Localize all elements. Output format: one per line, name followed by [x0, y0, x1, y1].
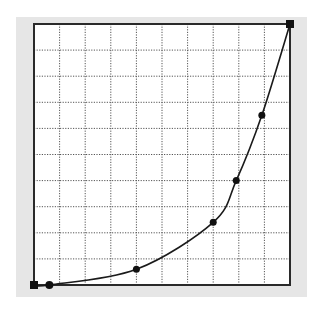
curve-control-point[interactable]	[258, 112, 265, 119]
curve-control-point[interactable]	[233, 177, 240, 184]
curve-endpoint-handle[interactable]	[30, 281, 38, 289]
curve-plot[interactable]	[0, 0, 315, 311]
curve-control-point[interactable]	[210, 219, 217, 226]
curve-control-point[interactable]	[45, 281, 53, 289]
curve-control-point[interactable]	[133, 266, 140, 273]
curve-endpoint-handle[interactable]	[286, 20, 294, 28]
